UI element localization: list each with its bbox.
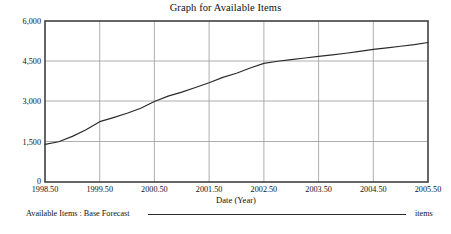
- x-tick-1999-50: 1999.50: [86, 185, 113, 194]
- y-tick-4500: 4,500: [23, 57, 41, 66]
- y-tick-1500: 1,500: [23, 138, 41, 147]
- x-tick-2002-50: 2002.50: [251, 185, 278, 194]
- y-axis-ticks: 0 1,500 3,000 4,500 6,000: [23, 17, 41, 186]
- x-tick-2000-50: 2000.50: [141, 185, 168, 194]
- x-axis-ticks: 1998.50 1999.50 2000.50 2001.50 2002.50 …: [32, 185, 442, 194]
- x-axis-title: Date (Year): [216, 195, 256, 205]
- legend-label: Available Items : Base Forecast: [26, 209, 130, 218]
- x-tick-2005-50: 2005.50: [415, 185, 442, 194]
- y-tick-3000: 3,000: [23, 97, 41, 106]
- x-tick-1998-50: 1998.50: [32, 185, 59, 194]
- x-tick-2004-50: 2004.50: [360, 185, 387, 194]
- y-tick-6000: 6,000: [23, 17, 41, 26]
- x-tick-2003-50: 2003.50: [305, 185, 332, 194]
- legend-unit-label: items: [415, 209, 433, 218]
- legend-line-sample: [148, 214, 406, 215]
- chart-container: Graph for Available Items 0 1,500 3,000: [0, 0, 451, 234]
- plot-background: [45, 21, 428, 182]
- plot-area: 0 1,500 3,000 4,500 6,000 1998.50 1999.5…: [0, 0, 451, 206]
- x-tick-2001-50: 2001.50: [196, 185, 223, 194]
